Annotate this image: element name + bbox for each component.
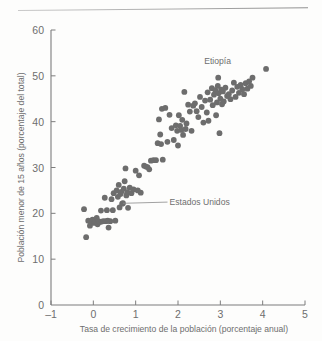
data-point bbox=[125, 205, 131, 211]
data-point bbox=[221, 99, 227, 105]
data-point bbox=[156, 116, 162, 122]
data-point bbox=[241, 91, 247, 97]
data-point bbox=[215, 75, 221, 81]
x-axis-tick-label: 5 bbox=[302, 308, 308, 320]
data-point bbox=[102, 195, 108, 201]
data-point bbox=[229, 88, 235, 94]
data-point bbox=[112, 218, 118, 224]
data-point bbox=[194, 108, 200, 114]
data-point bbox=[228, 96, 234, 102]
data-point bbox=[202, 98, 208, 104]
y-axis-tick-label: 20 bbox=[32, 207, 44, 219]
data-point bbox=[123, 166, 129, 172]
data-point bbox=[107, 218, 113, 224]
plot-canvas: 0102030405060–1012345EtiopíaEstados Unid… bbox=[0, 0, 322, 341]
data-point bbox=[181, 89, 187, 95]
x-axis-tick-label: 1 bbox=[133, 308, 139, 320]
data-point bbox=[171, 137, 177, 143]
data-point bbox=[206, 118, 212, 124]
data-point bbox=[167, 112, 173, 118]
data-point bbox=[83, 234, 89, 240]
data-point bbox=[217, 130, 223, 136]
data-point bbox=[81, 206, 87, 212]
data-point bbox=[183, 126, 189, 132]
data-point bbox=[109, 196, 115, 202]
data-point bbox=[146, 166, 152, 172]
data-point bbox=[184, 121, 190, 127]
data-point bbox=[180, 132, 186, 138]
data-point bbox=[110, 207, 116, 213]
data-point bbox=[160, 157, 166, 163]
x-axis-tick-label: 2 bbox=[175, 308, 181, 320]
data-point bbox=[138, 190, 144, 196]
data-point bbox=[136, 172, 142, 178]
data-point bbox=[213, 112, 219, 118]
annotation-label: Estados Unidos bbox=[170, 197, 230, 207]
data-point bbox=[192, 100, 198, 106]
y-axis-tick-label: 30 bbox=[32, 162, 44, 174]
annotation-label: Etiopía bbox=[204, 56, 231, 66]
data-point bbox=[98, 208, 104, 214]
y-axis-title: Población menor de 15 años (porcentaje d… bbox=[16, 72, 26, 262]
data-point bbox=[239, 86, 245, 92]
data-point bbox=[199, 104, 205, 110]
data-point bbox=[185, 102, 191, 108]
data-point bbox=[197, 94, 203, 100]
data-point bbox=[263, 66, 269, 72]
x-axis-title: Tasa de crecimiento de la población (por… bbox=[80, 324, 288, 334]
data-point bbox=[116, 182, 122, 188]
data-point bbox=[195, 114, 201, 120]
x-axis-tick-label: 0 bbox=[90, 308, 96, 320]
y-axis-tick-label: 10 bbox=[32, 253, 44, 265]
data-point bbox=[157, 132, 163, 138]
data-point bbox=[207, 97, 213, 103]
figure-scatter-plot: 0102030405060–1012345EtiopíaEstados Unid… bbox=[0, 0, 322, 341]
data-point bbox=[153, 157, 159, 163]
data-point bbox=[223, 85, 229, 91]
y-axis-tick-label: 0 bbox=[38, 299, 44, 311]
data-point bbox=[165, 139, 171, 145]
annotation-leader-line bbox=[123, 202, 168, 203]
y-axis-tick-label: 60 bbox=[32, 24, 44, 36]
x-axis-tick-label: 4 bbox=[260, 308, 266, 320]
data-point bbox=[204, 110, 210, 116]
y-axis-tick-label: 50 bbox=[32, 70, 44, 82]
x-axis-tick-label: 3 bbox=[217, 308, 223, 320]
data-point bbox=[187, 109, 193, 115]
data-point bbox=[175, 143, 181, 149]
data-point bbox=[248, 83, 254, 89]
data-point bbox=[201, 120, 207, 126]
data-point bbox=[104, 207, 110, 213]
data-point bbox=[122, 178, 128, 184]
data-point bbox=[250, 75, 256, 81]
x-axis-tick-label: –1 bbox=[45, 308, 57, 320]
data-point bbox=[162, 105, 168, 111]
data-point bbox=[158, 141, 164, 147]
data-point bbox=[106, 225, 112, 231]
y-axis-tick-label: 40 bbox=[32, 116, 44, 128]
data-point bbox=[189, 128, 195, 134]
data-point bbox=[205, 89, 211, 95]
